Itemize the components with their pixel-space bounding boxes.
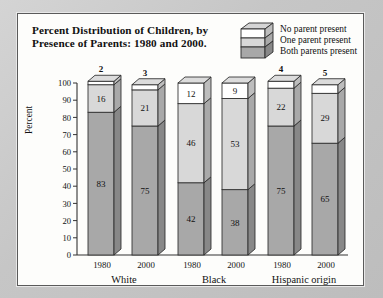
y-tick-label: 50	[62, 164, 71, 174]
x-tick-label-year: 1980	[93, 260, 111, 270]
y-tick-label: 90	[62, 95, 71, 105]
bar-value-no-parent: 4	[279, 64, 284, 74]
bar-value-one-parent: 21	[141, 103, 150, 113]
chart-panel: Percent Distribution of Children, by Pre…	[17, 13, 364, 286]
bar-value-both-parents: 42	[187, 214, 196, 224]
bar-value-both-parents: 83	[97, 179, 107, 189]
bar-value-both-parents: 75	[277, 186, 287, 196]
bar-value-no-parent: 3	[143, 68, 148, 78]
bar-value-no-parent: 9	[233, 86, 238, 96]
bar-value-no-parent: 2	[99, 64, 104, 74]
bar-value-no-parent: 12	[187, 89, 196, 99]
x-tick-label-year: 2000	[137, 260, 155, 270]
y-tick-label: 10	[62, 233, 71, 243]
y-tick-label: 70	[62, 130, 71, 140]
y-tick-label: 40	[62, 181, 71, 191]
bar-value-one-parent: 46	[187, 138, 197, 148]
x-tick-label-year: 2000	[317, 260, 335, 270]
y-tick-label: 20	[62, 216, 71, 226]
bar-value-both-parents: 75	[141, 186, 151, 196]
y-tick-label: 60	[62, 147, 71, 157]
stacked-bar-chart: 1009080706050403020100831621980752132000…	[18, 14, 363, 285]
y-tick-label: 0	[67, 250, 71, 260]
x-axis-group-label: Black	[202, 274, 227, 285]
x-axis-group-label: Hispanic origin	[272, 274, 337, 285]
bar-value-both-parents: 65	[321, 194, 331, 204]
x-axis-group-label: White	[111, 274, 137, 285]
x-tick-label-year: 1980	[183, 260, 201, 270]
x-tick-label-year: 1980	[273, 260, 291, 270]
bar-value-one-parent: 22	[277, 102, 286, 112]
bar-value-no-parent: 5	[323, 68, 328, 78]
y-tick-label: 80	[62, 113, 71, 123]
y-tick-label: 100	[58, 78, 71, 88]
bar-value-one-parent: 53	[231, 139, 241, 149]
bar-value-one-parent: 29	[321, 113, 331, 123]
bar-value-one-parent: 16	[97, 94, 107, 104]
x-tick-label-year: 2000	[227, 260, 245, 270]
y-tick-label: 30	[62, 199, 71, 209]
bar-value-both-parents: 38	[231, 218, 241, 228]
